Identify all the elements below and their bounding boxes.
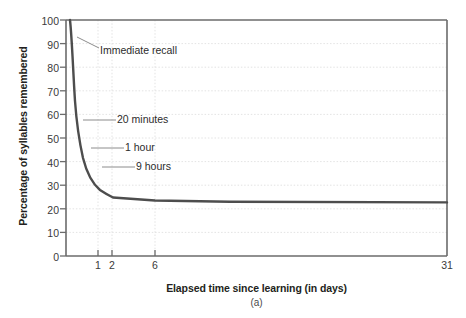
x-tick-label-31: 31 (434, 259, 460, 271)
annotation-immediate-recall: Immediate recall (100, 44, 177, 56)
chart-canvas (0, 0, 466, 318)
y-tick-label-20: 20 (33, 204, 59, 216)
y-tick-label-70: 70 (33, 86, 59, 98)
y-tick-label-30: 30 (33, 180, 59, 192)
y-tick-label-40: 40 (33, 157, 59, 169)
y-tick-label-50: 50 (33, 133, 59, 145)
y-tick-label-60: 60 (33, 109, 59, 121)
y-tick-label-10: 10 (33, 227, 59, 239)
y-tick-label-100: 100 (33, 15, 59, 27)
annotation-twenty-minutes: 20 minutes (117, 113, 168, 125)
x-axis-title: Elapsed time since learning (in days) (66, 282, 447, 294)
annotation-nine-hours: 9 hours (136, 160, 171, 172)
y-axis-ticks (60, 20, 66, 256)
panel-label: (a) (66, 297, 447, 308)
x-axis-ticks (98, 250, 155, 256)
y-tick-label-80: 80 (33, 62, 59, 74)
horizontal-gridlines (66, 44, 447, 233)
annotation-one-hour: 1 hour (125, 141, 155, 153)
y-tick-label-90: 90 (33, 39, 59, 51)
forgetting-curve-figure: 100 90 80 70 60 50 40 30 20 10 0 1 2 6 3… (0, 0, 466, 318)
x-tick-label-6: 6 (142, 259, 168, 271)
y-axis-title: Percentage of syllables remembered (17, 21, 29, 251)
leader-immediate-recall (77, 37, 99, 48)
x-tick-label-2: 2 (99, 259, 125, 271)
y-tick-label-0: 0 (33, 251, 59, 263)
